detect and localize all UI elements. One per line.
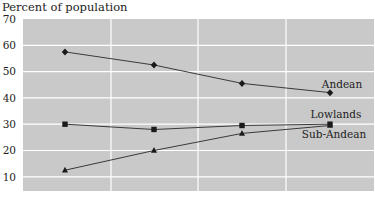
- square-marker: [239, 123, 244, 128]
- square-marker: [62, 122, 67, 127]
- y-axis-tick-labels: 10203040506070: [3, 13, 16, 183]
- y-tick-10: 10: [3, 171, 16, 183]
- y-tick-20: 20: [3, 144, 16, 156]
- line-chart: Percent of population 10203040506070 And…: [0, 0, 375, 197]
- square-marker: [151, 127, 156, 132]
- series-label-andean: Andean: [321, 78, 363, 90]
- y-tick-30: 30: [3, 118, 16, 130]
- series-label-lowlands: Lowlands: [311, 108, 362, 120]
- chart-canvas: 10203040506070 Andean Lowlands Sub-Andea…: [0, 0, 375, 197]
- y-tick-40: 40: [3, 92, 16, 104]
- y-tick-70: 70: [3, 13, 16, 25]
- y-tick-50: 50: [3, 65, 16, 77]
- y-tick-60: 60: [3, 39, 16, 51]
- series-label-sub-andean: Sub-Andean: [302, 128, 367, 140]
